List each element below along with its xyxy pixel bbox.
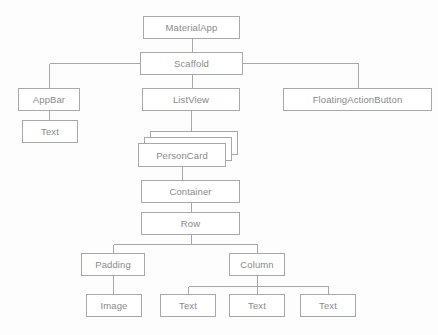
node-appbar[interactable]: AppBar (18, 88, 80, 111)
node-label: Padding (95, 259, 131, 270)
node-text1[interactable]: Text (160, 294, 216, 317)
node-materialapp[interactable]: MaterialApp (143, 16, 240, 39)
node-personcard[interactable]: PersonCard (138, 143, 226, 167)
node-text3[interactable]: Text (300, 294, 356, 317)
node-label: Scaffold (174, 58, 209, 69)
node-label: Text (41, 126, 59, 137)
node-label: Container (169, 186, 211, 197)
node-label: Text (248, 300, 266, 311)
node-label: Row (181, 218, 200, 229)
node-padding[interactable]: Padding (81, 253, 145, 276)
node-label: MaterialApp (166, 22, 218, 33)
node-text2[interactable]: Text (229, 294, 285, 317)
node-listview[interactable]: ListView (142, 88, 240, 111)
widget-tree-diagram: MaterialAppScaffoldAppBarTextListViewFlo… (0, 0, 438, 335)
node-label: Image (101, 300, 128, 311)
node-column[interactable]: Column (229, 253, 285, 276)
node-label: AppBar (33, 94, 65, 105)
node-label: Column (240, 259, 273, 270)
node-scaffold[interactable]: Scaffold (140, 52, 243, 75)
node-fab[interactable]: FloatingActionButton (283, 88, 432, 111)
node-appbartext[interactable]: Text (22, 120, 78, 143)
node-container[interactable]: Container (141, 180, 240, 203)
node-label: ListView (173, 94, 209, 105)
node-row[interactable]: Row (141, 212, 240, 235)
node-image[interactable]: Image (86, 294, 142, 317)
diagram-edges (0, 0, 438, 335)
node-label: PersonCard (156, 150, 208, 161)
node-label: Text (179, 300, 197, 311)
node-label: Text (319, 300, 337, 311)
node-label: FloatingActionButton (313, 94, 403, 105)
